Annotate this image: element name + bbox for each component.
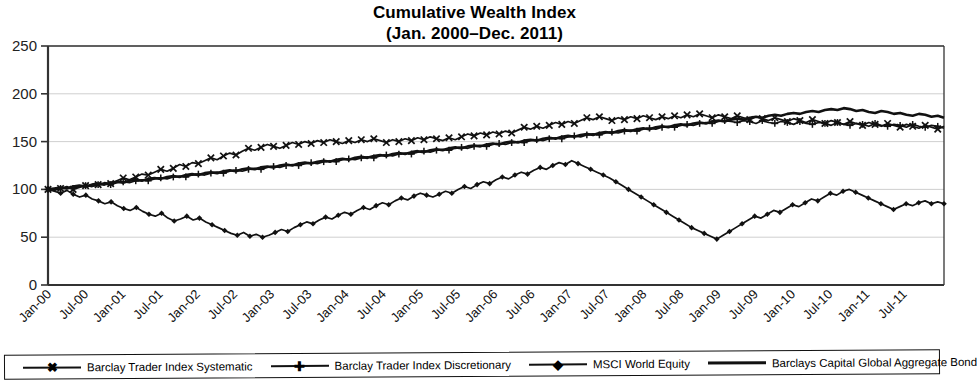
- svg-text:Jan-03: Jan-03: [239, 287, 278, 326]
- legend-item-bond[interactable]: Barclays Capital Global Aggregate Bond: [708, 355, 977, 369]
- svg-text:Jan-11: Jan-11: [835, 287, 873, 325]
- svg-text:Jul-10: Jul-10: [800, 287, 836, 323]
- svg-text:Jul-04: Jul-04: [353, 287, 389, 323]
- line-only-icon: [708, 357, 766, 369]
- svg-text:Jul-11: Jul-11: [875, 287, 910, 322]
- svg-text:Jan-01: Jan-01: [90, 287, 129, 326]
- svg-text:150: 150: [12, 133, 37, 150]
- svg-text:Jan-08: Jan-08: [611, 287, 650, 326]
- x-marker-icon: ✖: [23, 361, 81, 373]
- svg-text:Jan-09: Jan-09: [685, 287, 724, 326]
- legend-item-systematic[interactable]: ✖ Barclay Trader Index Systematic: [23, 360, 253, 373]
- svg-text:200: 200: [12, 85, 37, 102]
- svg-text:Jan-10: Jan-10: [759, 287, 798, 326]
- legend-label: Barclays Capital Global Aggregate Bond: [772, 355, 977, 368]
- svg-text:Jul-09: Jul-09: [725, 287, 761, 323]
- diamond-marker-icon: ◆: [529, 358, 587, 370]
- svg-text:Jul-00: Jul-00: [56, 287, 92, 323]
- svg-text:Jan-07: Jan-07: [536, 287, 575, 326]
- svg-text:Jul-05: Jul-05: [428, 287, 464, 323]
- svg-text:Jul-07: Jul-07: [577, 287, 613, 323]
- svg-text:100: 100: [12, 180, 37, 197]
- svg-text:Jul-08: Jul-08: [651, 287, 687, 323]
- svg-text:Jul-02: Jul-02: [204, 287, 240, 323]
- legend-item-discretionary[interactable]: ✚ Barclay Trader Index Discretionary: [271, 358, 511, 371]
- svg-text:Jan-02: Jan-02: [164, 287, 203, 326]
- svg-text:Jan-04: Jan-04: [313, 287, 352, 326]
- svg-text:50: 50: [20, 228, 37, 245]
- svg-text:0: 0: [29, 276, 37, 293]
- svg-text:250: 250: [12, 37, 37, 54]
- svg-text:Jan-05: Jan-05: [387, 287, 426, 326]
- legend-item-msci[interactable]: ◆ MSCI World Equity: [529, 357, 690, 370]
- svg-text:Jul-01: Jul-01: [130, 287, 166, 323]
- svg-text:Jan-06: Jan-06: [462, 287, 501, 326]
- legend-label: Barclay Trader Index Discretionary: [335, 358, 511, 371]
- legend-label: MSCI World Equity: [593, 357, 690, 370]
- legend-label: Barclay Trader Index Systematic: [87, 360, 253, 373]
- plus-marker-icon: ✚: [271, 359, 329, 371]
- svg-text:Jul-03: Jul-03: [279, 287, 315, 323]
- svg-text:Jul-06: Jul-06: [502, 287, 538, 323]
- series-msci-world-equity: [45, 161, 947, 242]
